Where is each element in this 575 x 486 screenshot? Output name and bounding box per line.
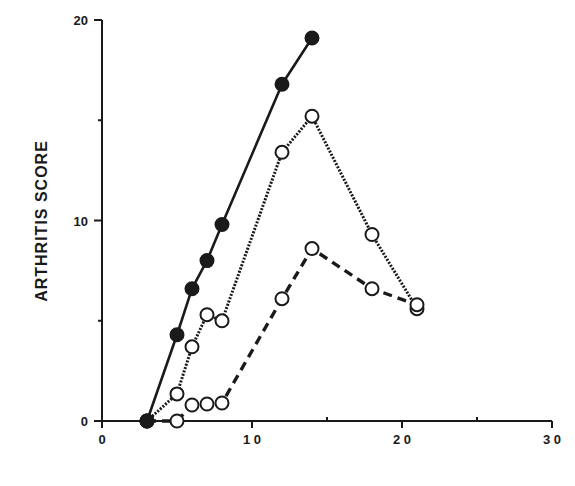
filled-circle-marker (171, 328, 184, 341)
x-tick-label: 3 0 (543, 432, 561, 447)
filled-circle-marker (201, 254, 214, 267)
x-tick-label: 2 0 (393, 432, 411, 447)
filled-circle-marker (186, 282, 199, 295)
open-circle-marker (366, 228, 379, 241)
x-tick-label: 1 0 (243, 432, 261, 447)
filled-circle-marker (306, 32, 319, 45)
open-circle-marker (276, 292, 289, 305)
series-markers (141, 32, 424, 428)
open-circle-marker (201, 398, 214, 411)
series-line-dotted-open (147, 116, 417, 421)
open-circle-marker (171, 387, 184, 400)
y-tick-label: 10 (74, 214, 88, 229)
arthritis-score-chart: 01 02 03 001020 ARTHRITIS SCORE (0, 0, 575, 486)
open-circle-marker (306, 110, 319, 123)
open-circle-marker (216, 314, 229, 327)
filled-circle-marker (141, 415, 154, 428)
filled-circle-marker (216, 218, 229, 231)
series-line-dashed-open (147, 249, 417, 421)
open-circle-marker (201, 308, 214, 321)
y-tick-label: 20 (74, 13, 88, 28)
x-tick-label: 0 (98, 432, 105, 447)
open-circle-marker (171, 415, 184, 428)
open-circle-marker (186, 399, 199, 412)
open-circle-marker (411, 298, 424, 311)
open-circle-marker (186, 340, 199, 353)
open-circle-marker (306, 242, 319, 255)
y-axis-title: ARTHRITIS SCORE (33, 140, 50, 302)
axes: 01 02 03 001020 (74, 13, 562, 447)
open-circle-marker (276, 146, 289, 159)
open-circle-marker (366, 282, 379, 295)
series-line-solid-filled (147, 38, 312, 421)
filled-circle-marker (276, 78, 289, 91)
y-tick-label: 0 (81, 414, 88, 429)
open-circle-marker (216, 397, 229, 410)
